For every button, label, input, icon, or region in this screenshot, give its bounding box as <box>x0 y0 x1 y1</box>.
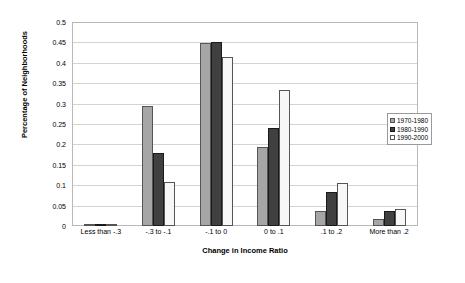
y-axis-tick-label: 0.5 <box>56 19 66 26</box>
y-axis-tick-label: 0 <box>62 223 66 230</box>
y-axis-tick-label: 0.05 <box>52 202 66 209</box>
y-axis: 00.050.10.150.20.250.30.350.40.450.5 <box>0 22 72 226</box>
y-axis-tick-label: 0.45 <box>52 39 66 46</box>
gridline <box>73 144 417 145</box>
gridline <box>73 42 417 43</box>
legend-swatch <box>390 118 395 123</box>
legend-label: 1970-1980 <box>397 117 428 124</box>
legend: 1970-19801980-19901990-2000 <box>387 113 432 145</box>
plot-area <box>72 22 418 226</box>
gridline <box>73 104 417 105</box>
x-axis-tick-label: .1 to .2 <box>303 228 359 235</box>
gridline <box>73 124 417 125</box>
y-axis-tick-label: 0.35 <box>52 80 66 87</box>
x-axis-tick-label: 0 to .1 <box>246 228 302 235</box>
gridline <box>73 63 417 64</box>
legend-item: 1980-1990 <box>390 125 428 133</box>
legend-swatch <box>390 135 395 140</box>
x-axis-tick-label: -.3 to -.1 <box>130 228 186 235</box>
y-axis-tick-label: 0.2 <box>56 141 66 148</box>
legend-label: 1990-2000 <box>397 134 428 141</box>
gridline <box>73 165 417 166</box>
legend-swatch <box>390 127 395 132</box>
y-axis-tick-label: 0.4 <box>56 59 66 66</box>
y-axis-tick-label: 0.25 <box>52 121 66 128</box>
gridline <box>73 185 417 186</box>
x-axis-tick-label: -.1 to 0 <box>188 228 244 235</box>
x-axis: Less than -.3-.3 to -.1-.1 to 00 to .1.1… <box>72 228 418 235</box>
legend-item: 1970-1980 <box>390 117 428 125</box>
x-axis-tick-label: Less than -.3 <box>73 228 129 235</box>
legend-item: 1990-2000 <box>390 134 428 142</box>
x-axis-title: Change in Income Ratio <box>72 246 418 255</box>
y-axis-tick-label: 0.3 <box>56 100 66 107</box>
legend-label: 1980-1990 <box>397 126 428 133</box>
gridline <box>73 206 417 207</box>
bar-chart: Percentage of Neighborhoods 00.050.10.15… <box>0 0 465 283</box>
y-axis-tick-label: 0.15 <box>52 161 66 168</box>
gridline <box>73 83 417 84</box>
y-axis-tick-label: 0.1 <box>56 182 66 189</box>
x-axis-tick-label: More than .2 <box>361 228 417 235</box>
